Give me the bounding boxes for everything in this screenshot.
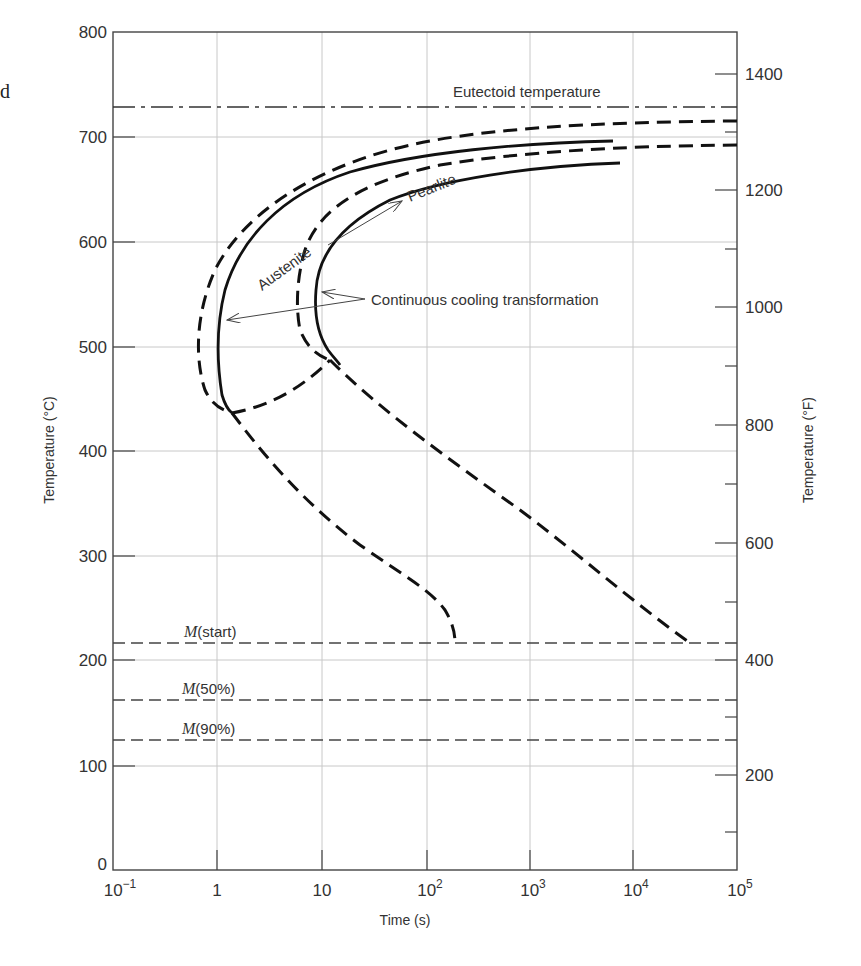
y-right-tick-label: 800	[745, 416, 773, 435]
right-axis-ticks	[715, 74, 737, 832]
cct-diagram: 800 700 600 500 400 300 200 100 0 1400 1…	[0, 0, 861, 966]
x-tick-label: 103	[520, 877, 546, 900]
x-tick-label: 10	[313, 881, 332, 900]
x-tick-label: 104	[623, 877, 649, 900]
lower-finish-curve	[330, 360, 690, 643]
left-axis-ticks	[113, 137, 135, 766]
cct-finish-curve	[316, 163, 621, 365]
isothermal-finish-curve	[297, 145, 737, 360]
bottom-axis-ticks	[217, 850, 633, 870]
y-tick-label: 200	[79, 651, 107, 670]
m-start-label: M(start)	[183, 623, 237, 640]
bainite-boundary-curve	[232, 360, 330, 413]
y-axis-title-left: Temperature (°C)	[41, 396, 57, 504]
y-tick-label: 400	[79, 442, 107, 461]
lower-start-curve	[232, 413, 455, 643]
m-50-label: M(50%)	[181, 680, 235, 697]
left-axis-labels: 800 700 600 500 400 300 200 100 0	[79, 23, 107, 874]
cct-label: Continuous cooling transformation	[371, 291, 599, 308]
y-right-tick-label: 600	[745, 534, 773, 553]
y-axis-title-right: Temperature (°F)	[800, 397, 816, 503]
right-axis-labels: 1400 1200 1000 800 600 400 200	[745, 65, 783, 785]
y-right-tick-label: 400	[745, 651, 773, 670]
eutectoid-label: Eutectoid temperature	[453, 83, 601, 100]
x-tick-label: 102	[417, 877, 443, 900]
x-tick-label: 1	[212, 881, 221, 900]
y-tick-label: 100	[79, 757, 107, 776]
y-right-tick-label: 1200	[745, 181, 783, 200]
pearlite-label: Pearlite	[405, 170, 459, 205]
y-tick-label: 700	[79, 128, 107, 147]
y-right-tick-label: 200	[745, 766, 773, 785]
y-tick-label: 300	[79, 547, 107, 566]
x-tick-label: 10−1	[104, 877, 137, 900]
austenite-label: Austenite	[254, 243, 315, 294]
m-90-label: M(90%)	[181, 720, 235, 737]
y-right-tick-label: 1000	[745, 298, 783, 317]
x-axis-labels: 10−1 1 10 102 103 104 105	[104, 877, 753, 900]
y-tick-label: 500	[79, 338, 107, 357]
x-axis-title: Time (s)	[380, 912, 431, 928]
y-tick-label: 600	[79, 233, 107, 252]
x-tick-label: 105	[727, 877, 753, 900]
y-tick-label: 0	[98, 855, 107, 874]
y-tick-label: 800	[79, 23, 107, 42]
gridlines	[113, 32, 737, 870]
y-right-tick-label: 1400	[745, 65, 783, 84]
